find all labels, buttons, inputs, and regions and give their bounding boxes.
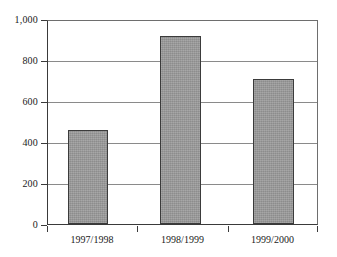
x-axis-label-1998-1999: 1998/1999 [137, 234, 228, 246]
bar-1997-1998 [68, 130, 108, 224]
y-axis-label-400: 400 [22, 138, 38, 148]
x-axis-tick-1 [137, 226, 138, 232]
x-axis-label-1999-2000: 1999/2000 [228, 234, 317, 246]
y-axis-label-0: 0 [33, 220, 38, 230]
y-axis-label-800: 800 [22, 56, 38, 66]
x-axis-tick-3 [317, 226, 318, 232]
y-axis-label-600: 600 [22, 97, 38, 107]
x-axis-tick-2 [228, 226, 229, 232]
bar-1998-1999 [160, 36, 201, 224]
x-axis-label-1997-1998: 1997/1998 [47, 234, 137, 246]
x-axis-tick-0 [47, 226, 48, 232]
bar-1999-2000 [253, 79, 294, 224]
plot-area [47, 20, 318, 225]
bar-chart: 1,000 800 600 400 200 0 1997/1998 1998/1… [0, 0, 337, 257]
y-axis-label-1000: 1,000 [15, 15, 39, 25]
y-axis-label-200: 200 [22, 179, 38, 189]
